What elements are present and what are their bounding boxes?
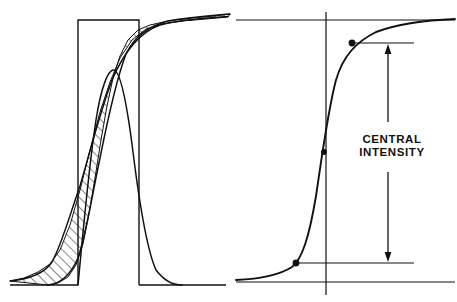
right-panel: CENTRAL INTENSITY — [236, 12, 455, 295]
upper-knee-dot — [349, 40, 356, 47]
two-panel-intensity-profile-figure: CENTRAL INTENSITY — [0, 0, 457, 302]
central-intensity-label-line1: CENTRAL — [362, 133, 421, 145]
arrow-head-up — [385, 44, 392, 54]
inflection-dot — [321, 149, 327, 155]
lower-knee-dot — [293, 260, 300, 267]
left-panel — [0, 0, 240, 302]
hatch-region-outline — [10, 14, 230, 285]
figure-root: CENTRAL INTENSITY — [0, 0, 457, 302]
broad-sigmoid-curve — [10, 17, 228, 282]
central-intensity-label: CENTRAL INTENSITY — [359, 133, 424, 158]
central-intensity-label-line2: INTENSITY — [359, 146, 424, 158]
hatched-difference-region — [0, 0, 240, 302]
arrow-head-down — [385, 252, 392, 262]
ideal-rectangular-profile-box — [78, 20, 139, 285]
hatch-fill — [0, 0, 240, 302]
